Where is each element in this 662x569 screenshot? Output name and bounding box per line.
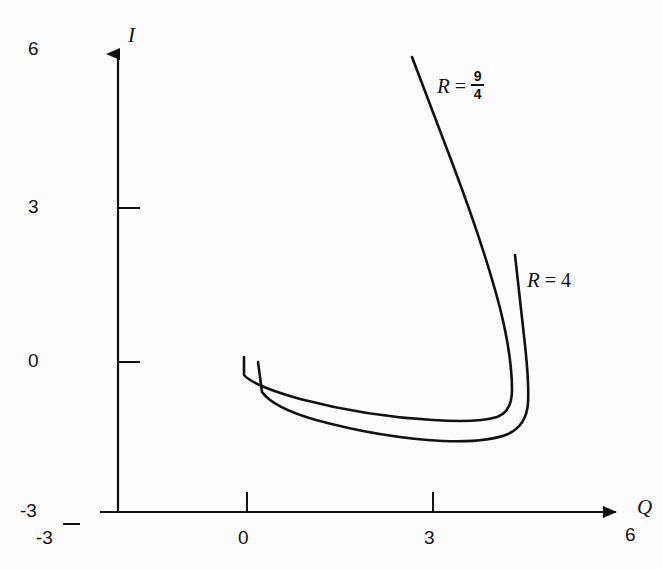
annotation-equals: = xyxy=(545,269,556,292)
y-axis-label: I xyxy=(128,23,135,48)
y-tick-label-0: 0 xyxy=(28,350,39,372)
annotation-variable-r: R xyxy=(527,268,540,293)
annotation-equals: = xyxy=(455,75,466,98)
annotation-variable-r: R xyxy=(437,74,450,99)
x-tick-label-6: 6 xyxy=(625,524,636,546)
x-tick-label-minus3: -3 xyxy=(36,527,53,549)
x-tick-label-3: 3 xyxy=(424,527,435,549)
curve-annotation-r-nine-fourths: R = 9 4 xyxy=(437,70,484,102)
y-tick-label-minus3: -3 xyxy=(20,500,37,522)
fraction-numerator: 9 xyxy=(472,69,484,84)
y-tick-label-3: 3 xyxy=(28,196,39,218)
x-tick-label-0: 0 xyxy=(238,527,249,549)
fraction-nine-fourths: 9 4 xyxy=(471,69,484,101)
curve-r-four xyxy=(258,255,528,441)
curve-annotation-r-four: R = 4 xyxy=(527,268,571,293)
annotation-value-four: 4 xyxy=(561,269,571,292)
x-axis-label: Q xyxy=(637,495,652,520)
curve-r-nine-fourths xyxy=(244,57,512,421)
y-tick-label-6: 6 xyxy=(28,38,39,60)
fraction-denominator: 4 xyxy=(472,86,484,101)
figure-canvas: I Q 6 3 0 -3 -3 0 3 6 R = 9 4 R = 4 xyxy=(0,0,662,569)
